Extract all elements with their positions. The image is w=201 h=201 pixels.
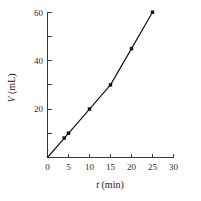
data-point-marker [63, 137, 66, 140]
x-tick-label-15: 15 [106, 162, 116, 172]
x-tick-label-25: 25 [148, 162, 158, 172]
y-axis-title-unit: (mL) [6, 73, 18, 94]
x-tick-label-10: 10 [85, 162, 95, 172]
x-tick-labels: 0 5 10 15 20 25 30 [45, 162, 178, 172]
y-tick-labels: 20 40 60 [34, 8, 44, 115]
data-point-marker [130, 47, 133, 50]
x-tick-label-20: 20 [127, 162, 137, 172]
y-axis-title: V (mL) [6, 73, 18, 102]
y-tick-marks [48, 12, 52, 133]
x-axis-title-unit: (min) [102, 179, 124, 191]
chart-plot-area: 0 5 10 15 20 25 30 20 40 60 t (min) [0, 0, 201, 201]
data-markers [63, 11, 154, 140]
y-tick-label-40: 40 [34, 56, 44, 66]
data-point-marker [151, 11, 154, 14]
data-point-marker [67, 132, 70, 135]
data-point-marker [109, 83, 112, 86]
x-tick-label-30: 30 [169, 162, 179, 172]
x-tick-marks [48, 154, 174, 158]
data-series-line [48, 12, 153, 157]
chart-figure: 0 5 10 15 20 25 30 20 40 60 t (min) [0, 0, 201, 201]
x-axis-title: t (min) [96, 179, 124, 191]
data-point-marker [88, 108, 91, 111]
y-tick-label-20: 20 [34, 104, 44, 114]
x-tick-label-0: 0 [45, 162, 50, 172]
x-tick-label-5: 5 [66, 162, 71, 172]
y-tick-label-60: 60 [34, 8, 44, 18]
